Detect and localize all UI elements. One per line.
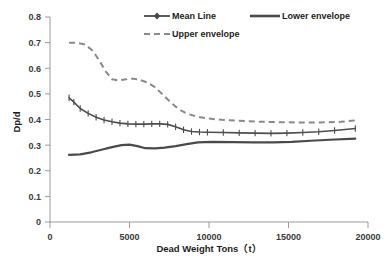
series-group: [69, 43, 355, 155]
series-line-mean-line: [69, 98, 355, 134]
x-axis-tick-label: 0: [47, 232, 52, 242]
chart-legend: Mean LineLower envelopeUpper envelope: [144, 11, 350, 39]
x-axis-title: Dead Weight Tons（t）: [156, 243, 261, 254]
line-chart: 00.10.20.30.40.50.60.70.8 05000100001500…: [0, 0, 385, 268]
y-axis-tick-label: 0.2: [28, 166, 41, 176]
y-axis-title: Dp/d: [11, 111, 22, 132]
chart-container: 00.10.20.30.40.50.60.70.8 05000100001500…: [0, 0, 385, 268]
x-axis-tick-group: 05000100001500020000: [47, 222, 380, 242]
y-axis-tick-label: 0.7: [28, 38, 41, 48]
y-axis-tick-label: 0.4: [28, 115, 41, 125]
legend-label: Upper envelope: [172, 29, 240, 39]
y-axis-tick-label: 0.8: [28, 12, 41, 22]
y-axis-tick-group: 00.10.20.30.40.50.60.70.8: [28, 12, 50, 227]
y-axis-tick-label: 0.6: [28, 64, 41, 74]
series-line-upper-envelope: [69, 43, 355, 123]
x-axis-tick-label: 10000: [196, 232, 221, 242]
x-axis-tick-label: 15000: [276, 232, 301, 242]
legend-label: Mean Line: [172, 11, 216, 21]
legend-diamond-marker-icon: [154, 13, 161, 20]
legend-label: Lower envelope: [282, 11, 350, 21]
y-axis-tick-label: 0.5: [28, 89, 41, 99]
x-axis-tick-label: 5000: [119, 232, 139, 242]
series-line-lower-envelope: [69, 139, 355, 155]
y-axis-tick-label: 0.3: [28, 141, 41, 151]
x-axis-tick-label: 20000: [355, 232, 380, 242]
y-axis-tick-label: 0.1: [28, 192, 41, 202]
y-axis-tick-label: 0: [36, 217, 41, 227]
